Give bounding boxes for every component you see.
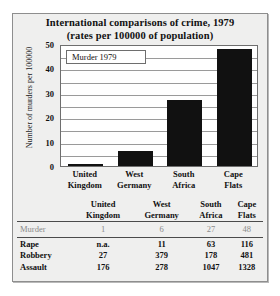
table-cell-0-1: 6 xyxy=(132,222,191,238)
y-tick-label-2: 20 xyxy=(46,113,55,123)
table-cell-3-2: 1047 xyxy=(191,261,231,273)
table-cell-0-3: 48 xyxy=(231,222,263,238)
table-cell-1-0: n.a. xyxy=(74,237,132,249)
table-cell-1-3: 116 xyxy=(231,237,263,249)
table-col-header-1: WestGermany xyxy=(132,199,191,222)
y-tick-label-1: 10 xyxy=(46,138,55,148)
table-row: Robbery27379178481 xyxy=(17,249,263,261)
x-label-line: West xyxy=(110,169,160,180)
bar-0 xyxy=(68,164,103,166)
x-label-2: SouthAfrica xyxy=(159,169,209,190)
table-col-header-line: United xyxy=(74,199,132,210)
x-label-line: Cape xyxy=(209,169,259,180)
table-cell-2-3: 481 xyxy=(231,249,263,261)
table-row: Rapen.a.1163116 xyxy=(17,237,263,249)
x-label-line: United xyxy=(60,169,110,180)
y-tick-label-4: 40 xyxy=(46,64,55,74)
bar-3 xyxy=(217,49,252,166)
table-col-header-line: Germany xyxy=(132,210,191,221)
y-tick-label-3: 30 xyxy=(46,89,55,99)
table-col-header-line: Cape xyxy=(231,199,263,210)
table-cell-3-0: 176 xyxy=(74,261,132,273)
table-head: UnitedKingdomWestGermanySouthAfricaCapeF… xyxy=(17,199,263,222)
x-label-line: Flats xyxy=(209,180,259,191)
y-tick-label-0: 0 xyxy=(50,162,54,172)
x-label-line: Kingdom xyxy=(60,180,110,191)
bar-1 xyxy=(118,151,153,166)
table-row-label: Assault xyxy=(17,261,74,273)
table-col-header-line: South xyxy=(191,199,231,210)
table-cell-2-0: 27 xyxy=(74,249,132,261)
table-row-label: Robbery xyxy=(17,249,74,261)
y-axis-ticks: 01020304050 xyxy=(31,45,57,167)
x-label-line: South xyxy=(159,169,209,180)
x-label-3: CapeFlats xyxy=(209,169,259,190)
table-cell-3-1: 278 xyxy=(132,261,191,273)
table-cell-2-2: 178 xyxy=(191,249,231,261)
figure-panel: International comparisons of crime, 1979… xyxy=(12,13,268,282)
table-row-label: Murder xyxy=(17,222,74,238)
table-body: Murder162748Rapen.a.1163116Robbery273791… xyxy=(17,222,263,273)
table-cell-1-2: 63 xyxy=(191,237,231,249)
data-table: UnitedKingdomWestGermanySouthAfricaCapeF… xyxy=(17,199,263,272)
x-label-0: UnitedKingdom xyxy=(60,169,110,190)
table-col-header-line: West xyxy=(132,199,191,210)
table-cell-3-3: 1328 xyxy=(231,261,263,273)
legend: Murder 1979 xyxy=(66,50,146,64)
table-header-row: UnitedKingdomWestGermanySouthAfricaCapeF… xyxy=(17,199,263,222)
table-col-header-0: UnitedKingdom xyxy=(74,199,132,222)
chart-title-block: International comparisons of crime, 1979… xyxy=(13,17,267,42)
x-label-1: WestGermany xyxy=(110,169,160,190)
table-col-header-3: CapeFlats xyxy=(231,199,263,222)
plot-area: Murder 1979 xyxy=(60,45,258,167)
table-col-header-line: Flats xyxy=(231,210,263,221)
x-axis-labels: UnitedKingdomWestGermanySouthAfricaCapeF… xyxy=(60,169,258,195)
table-corner-cell xyxy=(17,199,74,222)
table-row: Assault17627810471328 xyxy=(17,261,263,273)
data-table-wrapper: UnitedKingdomWestGermanySouthAfricaCapeF… xyxy=(17,199,263,272)
table-cell-0-0: 1 xyxy=(74,222,132,238)
x-label-line: Germany xyxy=(110,180,160,191)
table-row-label: Rape xyxy=(17,237,74,249)
table-col-header-line: Kingdom xyxy=(74,210,132,221)
table-col-header-2: SouthAfrica xyxy=(191,199,231,222)
table-cell-0-2: 27 xyxy=(191,222,231,238)
table-cell-2-1: 379 xyxy=(132,249,191,261)
x-label-line: Africa xyxy=(159,180,209,191)
bar-2 xyxy=(167,100,202,166)
table-row: Murder162748 xyxy=(17,222,263,238)
plot-wrapper: Number of murders per 100000 01020304050… xyxy=(13,45,269,195)
table-cell-1-1: 11 xyxy=(132,237,191,249)
y-tick-label-5: 50 xyxy=(46,40,55,50)
chart-title: International comparisons of crime, 1979 xyxy=(13,17,267,30)
table-col-header-line: Africa xyxy=(191,210,231,221)
